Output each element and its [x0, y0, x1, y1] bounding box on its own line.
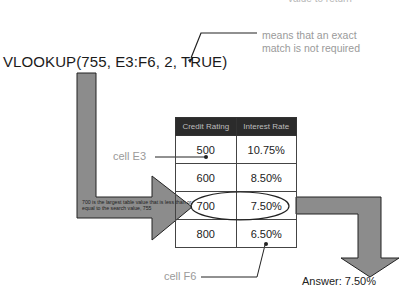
cell-e3-label: cell E3	[113, 150, 146, 162]
cell-f6-label: cell F6	[164, 270, 196, 282]
top-cut-note: value to return	[288, 0, 352, 4]
arrow-explanation: 700 is the largest table value that is l…	[82, 199, 197, 211]
vlookup-formula: VLOOKUP(755, E3:F6, 2, TRUE)	[3, 53, 227, 70]
note-line-1: means that an exact	[262, 29, 360, 42]
answer-text: Answer: 7.50%	[302, 275, 376, 287]
highlight-ellipse	[191, 192, 289, 220]
note-line-2: match is not required	[262, 42, 360, 55]
exact-match-note: means that an exact match is not require…	[262, 29, 360, 55]
